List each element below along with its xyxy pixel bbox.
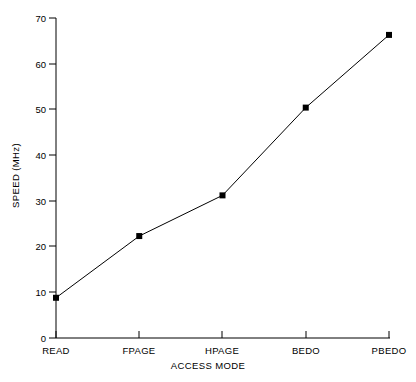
data-point-marker <box>386 32 392 38</box>
speed-vs-access-mode-chart: 70 60 50 40 30 20 10 0 READ FPAGE HPAGE … <box>0 0 416 382</box>
y-tick-label: 50 <box>20 104 46 115</box>
data-point-marker <box>220 192 226 198</box>
x-tick-label-fpage: FPAGE <box>99 345 179 356</box>
y-tick-label: 10 <box>20 287 46 298</box>
data-point-marker <box>136 233 142 239</box>
y-tick-label: 60 <box>20 59 46 70</box>
x-axis-title: ACCESS MODE <box>0 360 416 371</box>
data-series-line <box>56 35 389 298</box>
x-axis-ticks <box>56 331 389 338</box>
x-tick-label-hpage: HPAGE <box>182 345 262 356</box>
data-series-markers <box>53 32 392 301</box>
data-point-marker <box>53 295 59 301</box>
y-tick-label: 0 <box>20 333 46 344</box>
y-tick-label: 20 <box>20 241 46 252</box>
x-tick-label-read: READ <box>16 345 96 356</box>
y-axis-title: SPEED (MHz) <box>10 121 21 231</box>
x-tick-label-bedo: BEDO <box>266 345 346 356</box>
y-tick-label: 40 <box>20 150 46 161</box>
plot-area <box>0 0 416 382</box>
y-axis-ticks <box>49 18 56 338</box>
data-point-marker <box>303 105 309 111</box>
y-tick-label: 70 <box>20 13 46 24</box>
y-tick-label: 30 <box>20 196 46 207</box>
x-tick-label-pbedo: PBEDO <box>349 345 416 356</box>
